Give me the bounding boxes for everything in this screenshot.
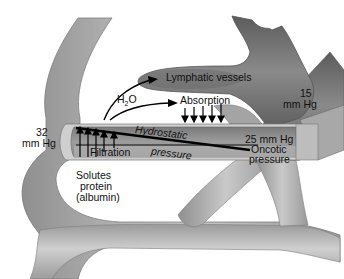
label-albumin: (albumin) bbox=[76, 192, 120, 203]
label-absorption: Absorption bbox=[180, 95, 230, 106]
label-oncotic-pressure: pressure bbox=[249, 154, 290, 165]
arrowhead-absorption bbox=[168, 99, 178, 107]
h2o-h: H bbox=[117, 93, 125, 105]
label-32-unit: mm Hg bbox=[22, 138, 56, 149]
label-lymphatic-vessels: Lymphatic vessels bbox=[166, 72, 251, 83]
label-15-unit: mm Hg bbox=[283, 99, 317, 110]
label-filtration: Filtration bbox=[90, 147, 130, 158]
h2o-o: O bbox=[129, 93, 137, 105]
label-h2o: H2O bbox=[117, 94, 137, 109]
